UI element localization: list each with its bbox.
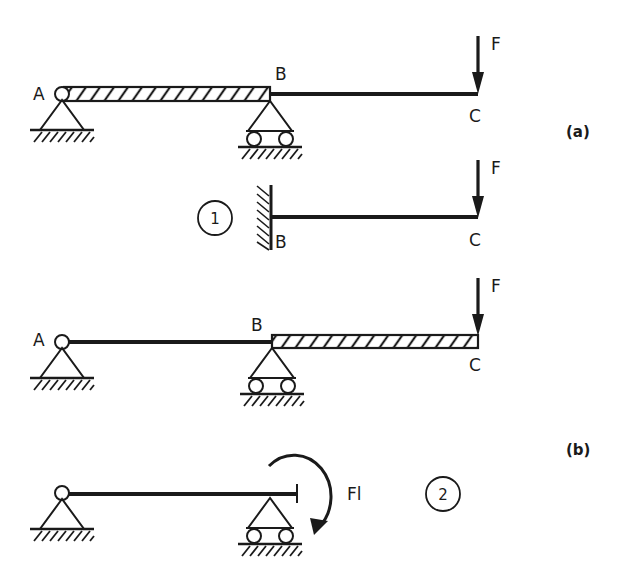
label-b: B [275,64,287,84]
force-arrow-icon [472,278,484,336]
roller-support-icon [240,348,304,406]
beam-superposition-figure: A B C F (a) 1 B C F A B C [0,0,626,588]
label-a: A [33,330,45,350]
hatched-beam-segment-bc [272,335,478,348]
roller-support-icon [238,498,302,556]
label-c: C [469,106,481,126]
label-force: F [491,34,501,54]
subsystem-2-moment-beam: Fl 2 [30,455,460,556]
wall-hatching [257,186,269,250]
label-c: C [469,355,481,375]
subsystem-number: 1 [210,210,220,228]
moment-label: Fl [347,484,362,504]
caption-a: (a) [566,123,590,141]
subsystem-1-cantilever: 1 B C F [198,158,501,252]
label-a: A [33,84,45,104]
label-force: F [491,276,501,296]
roller-support-icon [238,101,302,159]
label-c: C [469,230,481,250]
panel-a-original-beam: A B C F [30,34,501,159]
label-force: F [491,158,501,178]
label-b: B [275,232,287,252]
hatched-beam-segment-ab [64,87,270,101]
subsystem-number: 2 [438,486,448,504]
caption-b: (b) [566,441,590,459]
force-arrow-icon [472,160,484,218]
label-b: B [251,315,263,335]
panel-b-original-beam: A B C F [30,276,501,406]
force-arrow-icon [472,36,484,94]
